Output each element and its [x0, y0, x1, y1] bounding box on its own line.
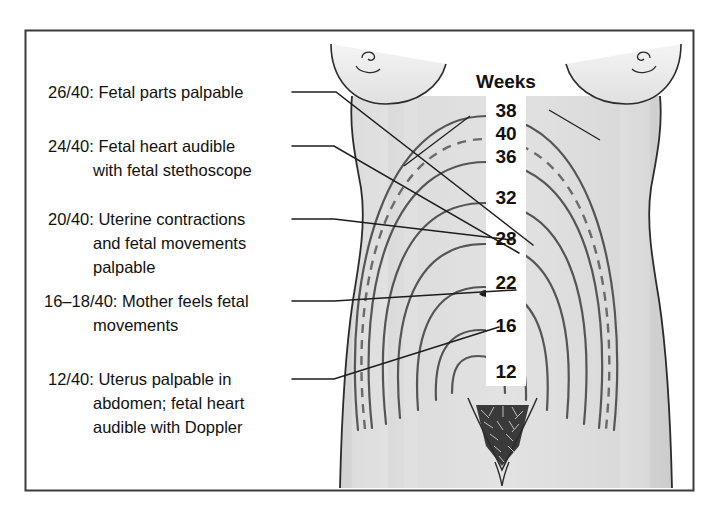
annotation-16-18-line-1: 16–18/40: Mother feels fetal [44, 292, 249, 310]
annotation-20-line-3: palpable [93, 258, 155, 276]
week-marker-36: 36 [495, 146, 516, 167]
annotation-12-line-3: audible with Doppler [93, 418, 243, 436]
annotation-26-line-1: 26/40: Fetal parts palpable [48, 83, 243, 101]
annotation-20-line-1: 20/40: Uterine contractions [48, 210, 245, 228]
annotation-24-line-1: 24/40: Fetal heart audible [48, 137, 235, 155]
week-marker-40: 40 [495, 123, 516, 144]
week-marker-38: 38 [495, 100, 516, 121]
week-marker-12: 12 [495, 361, 516, 382]
week-marker-32: 32 [495, 187, 516, 208]
week-marker-22: 22 [495, 272, 516, 293]
annotation-12-line-2: abdomen; fetal heart [93, 394, 245, 412]
week-marker-28: 28 [495, 228, 516, 249]
fundal-height-figure: Weeks 38 40 36 32 28 22 16 12 26/40: Fet… [0, 0, 709, 512]
annotation-24-line-2: with fetal stethoscope [92, 161, 252, 179]
annotation-20-line-2: and fetal movements [93, 234, 246, 252]
week-marker-16: 16 [495, 315, 516, 336]
annotation-12-line-1: 12/40: Uterus palpable in [48, 370, 231, 388]
weeks-axis-title: Weeks [476, 71, 536, 92]
annotation-16-18-line-2: movements [93, 316, 178, 334]
